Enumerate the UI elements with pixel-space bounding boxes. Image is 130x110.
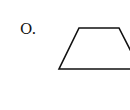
- trapezoid-shape: [59, 28, 130, 69]
- trapezoid-diagram: [0, 0, 130, 110]
